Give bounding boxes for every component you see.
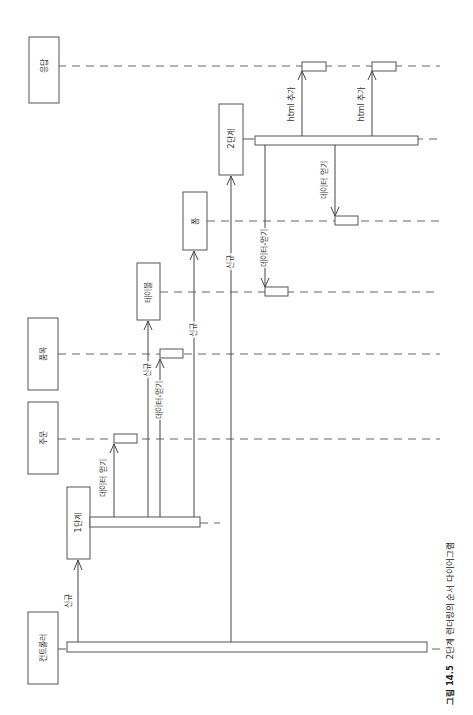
message-label: 데이터 얻기 [319,161,329,199]
message-step1-to-order: 데이터 얻기 [98,444,118,517]
activation-step1 [90,517,200,527]
participant-step1: 1단계 [67,487,90,559]
sequence-diagram: 컨트롤러 주문 품목 응답 1단계 테이블 폼 2단계 [0,0,473,715]
message-label: 신규 [226,255,235,269]
message-step2-to-response-1: html 추가 [287,71,306,136]
activation-response-1 [302,62,326,71]
activation-table-step2 [265,287,288,296]
message-step2-to-response-2: html 추가 [357,71,376,136]
participant-form: 폼 [183,192,207,250]
figure-number: 그림 14.5 [445,665,455,705]
participant-table: 테이블 [137,263,160,320]
activation-controller [67,642,427,652]
participant-step2: 2단계 [219,104,254,175]
participant-label: 2단계 [226,129,236,148]
activation-order [114,434,137,443]
activation-form-step2 [335,216,358,225]
figure-title: 2단계 렌더링의 순서 다이어그램 [445,542,455,660]
activation-response-2 [372,62,396,71]
message-controller-to-step2: 신규 [226,176,235,642]
participant-label: 1단계 [73,513,83,532]
message-label: 데이터 얻기 [98,459,108,497]
participant-order: 주문 [28,402,58,474]
participant-label: 테이블 [143,282,153,303]
message-label: html 추가 [357,86,366,122]
message-label: 데이터 얻기 [259,229,269,267]
message-label: 데이터 얻기 [154,381,164,419]
participant-label: 주문 [39,431,48,445]
activation-step2 [255,136,418,145]
activation-item [160,349,183,358]
message-label: 신규 [143,363,152,377]
participant-label: 컨트롤러 [38,634,48,662]
message-controller-to-step1: 신규 [64,560,82,642]
participant-label: 품목 [39,347,48,361]
message-step1-to-form: 신규 [189,251,198,517]
message-label: 신규 [189,323,198,337]
message-step2-to-table: 데이터 얻기 [259,145,269,287]
message-label: html 추가 [287,86,296,122]
message-label: 신규 [64,594,73,608]
participant-controller: 컨트롤러 [28,612,66,684]
participant-item: 품목 [28,318,58,390]
message-step1-to-table: 신규 [143,321,152,517]
participant-label: 응답 [39,58,49,73]
figure-caption: 그림 14.5 2단계 렌더링의 순서 다이어그램 [445,542,455,705]
participant-label: 폼 [191,218,200,225]
message-step1-to-item: 데이터 얻기 [154,359,164,517]
message-step2-to-form: 데이터 얻기 [319,145,339,216]
participant-response: 응답 [29,37,59,103]
